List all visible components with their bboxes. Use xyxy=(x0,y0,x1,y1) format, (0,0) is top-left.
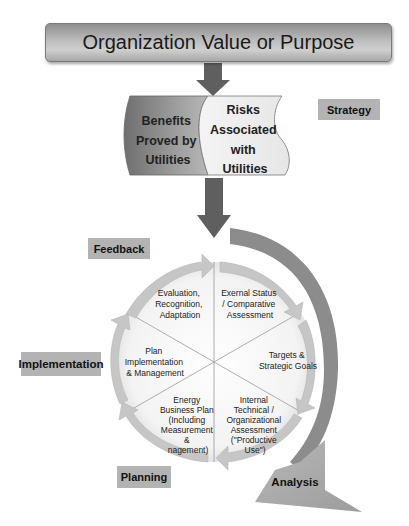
label-planning: Planning xyxy=(117,466,171,488)
banner-title: Organization Value or Purpose xyxy=(82,31,354,54)
label-planning-text: Planning xyxy=(121,471,167,483)
label-analysis-text: Analysis xyxy=(271,476,318,488)
segment-evaluation: Evaluation, Recognition, Adaptation xyxy=(155,288,205,320)
scroll-left-text: Benefits Proved by Utilities xyxy=(136,114,200,167)
down-arrow-icon-top xyxy=(196,63,230,96)
label-strategy: Strategy xyxy=(318,99,380,120)
down-arrow-icon-mid xyxy=(197,178,231,238)
label-analysis: Analysis xyxy=(265,473,325,491)
label-feedback: Feedback xyxy=(88,238,150,259)
label-strategy-text: Strategy xyxy=(327,104,371,116)
organization-value-banner: Organization Value or Purpose xyxy=(45,23,392,62)
label-implementation-text: Implementation xyxy=(19,358,104,370)
label-feedback-text: Feedback xyxy=(94,243,145,255)
segment-external-status: Exernal Status / Comparative Assessment xyxy=(221,288,279,320)
label-implementation: Implementation xyxy=(21,352,101,376)
strategy-cycle-diagram: Benefits Proved by Utilities Risks Assoc… xyxy=(0,0,409,526)
